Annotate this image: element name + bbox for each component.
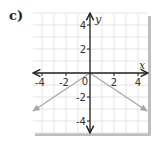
origin-label: 0: [82, 76, 88, 87]
x-tick-label: -4: [35, 77, 45, 88]
y-tick-label: 4: [80, 20, 86, 31]
x-axis-label: x: [139, 59, 146, 72]
x-tick-label: 2: [111, 77, 117, 88]
y-tick-label: 2: [80, 44, 86, 55]
x-tick-label: -2: [59, 77, 69, 88]
x-tick-label: 4: [135, 77, 141, 88]
graph: -4-22442-2-40xy: [0, 0, 155, 145]
y-tick-label: -4: [76, 116, 86, 127]
y-axis-label: y: [94, 13, 102, 26]
y-tick-label: -2: [76, 92, 86, 103]
